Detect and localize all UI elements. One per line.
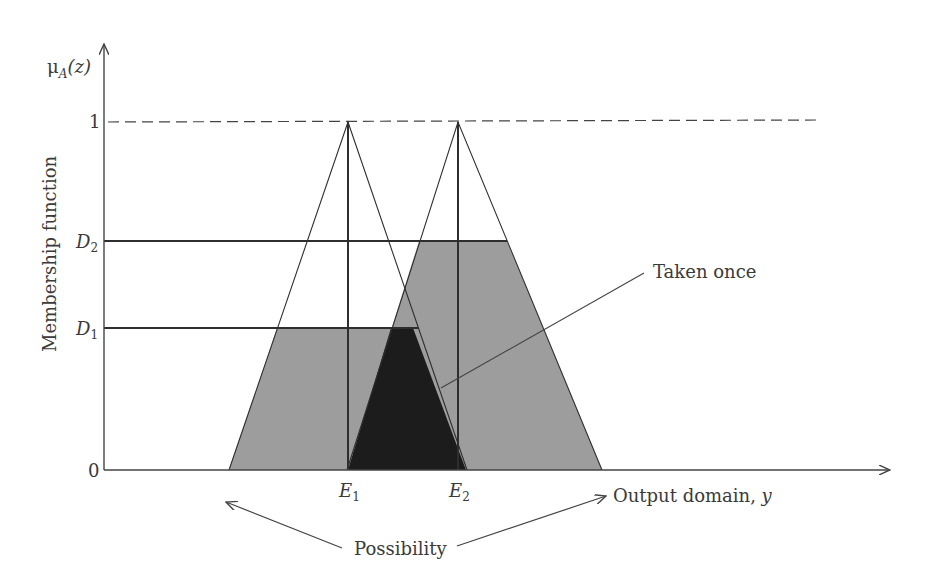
taken-once-label: Taken once [653,261,756,282]
y-tick-0: 0 [88,460,99,481]
y-tick-d1: D1 [75,318,98,342]
y-tick-1: 1 [89,111,100,132]
y-tick-d2: D2 [75,231,98,255]
y-axis-symbol: μA(z) [47,56,91,81]
possibility-arrow-right [457,496,606,546]
x-tick-e2: E2 [448,480,470,504]
x-axis-label: Output domain, y [613,485,773,506]
unity-level-dashed-line [108,120,820,122]
x-tick-e1: E1 [338,480,360,504]
possibility-arrow-left [226,502,342,548]
possibility-label: Possibility [354,538,447,559]
y-axis-label: Membership function [39,155,60,352]
fuzzy-membership-diagram: μA(z) Membership function 1 D2 D1 0 E1 E… [0,0,927,588]
